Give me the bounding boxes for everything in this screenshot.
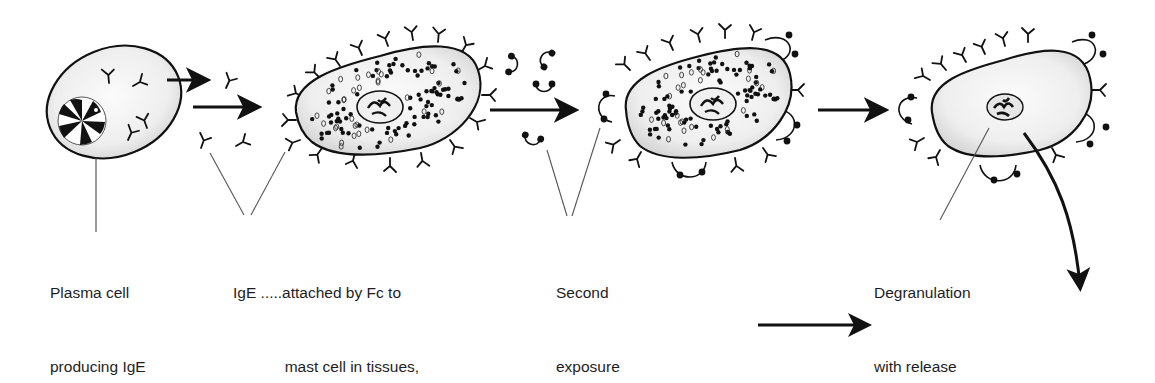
release-arrow	[1024, 133, 1080, 286]
label-line: producing IgE	[50, 355, 147, 380]
free-ige-antibodies	[195, 73, 251, 151]
antigen-pointer-lines	[547, 128, 600, 216]
antigen-bound-mast-cell	[599, 24, 804, 178]
plasma-cell-nucleus	[58, 97, 106, 145]
label-second-exposure: Second exposure to specific antigen ....…	[556, 232, 695, 383]
label-line: Degranulation	[874, 281, 1007, 306]
label-line: mast cell in tissues,	[233, 355, 419, 380]
degranulated-mast-cell	[899, 28, 1109, 183]
label-line: exposure	[556, 355, 695, 380]
label-plasma-cell: Plasma cell producing IgE in response to…	[50, 232, 147, 383]
ige-pointer-lines	[210, 152, 285, 215]
label-line: Plasma cell	[50, 281, 147, 306]
label-line: Second	[556, 281, 695, 306]
label-degranulation: Degranulation with release of vaso-activ…	[874, 232, 1007, 383]
label-ige: IgE .....attached by Fc to mast cell in …	[233, 232, 419, 383]
free-antigens	[505, 46, 557, 147]
plasma-cell	[30, 26, 198, 178]
label-line: IgE .....attached by Fc to	[233, 281, 419, 306]
label-line: with release	[874, 355, 1007, 380]
sensitized-mast-cell	[282, 25, 496, 172]
